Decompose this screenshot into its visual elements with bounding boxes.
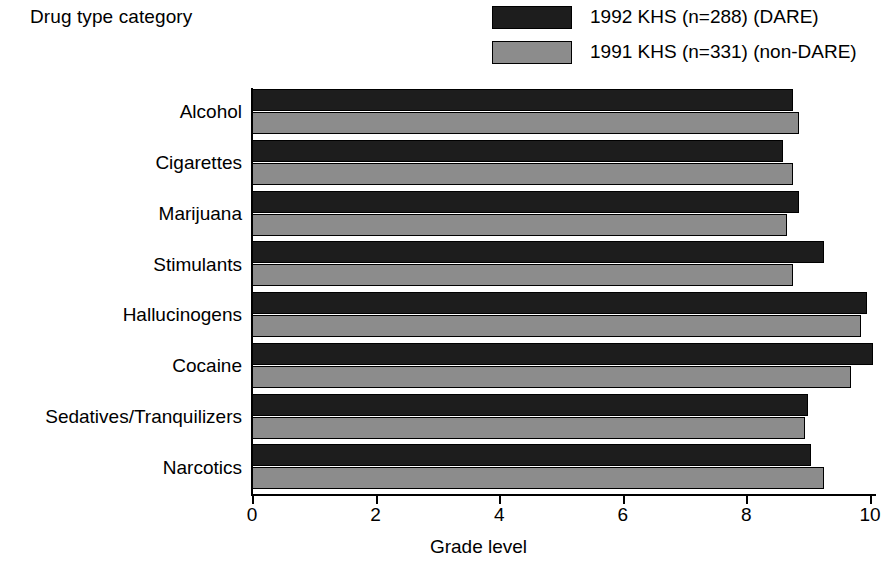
x-tick-label: 0 bbox=[247, 504, 258, 526]
bar-stimulants-1992 bbox=[252, 241, 824, 263]
bar-sedatives-tranquilizers-1991 bbox=[252, 417, 805, 439]
bar-narcotics-1991 bbox=[252, 467, 824, 489]
x-tick-label: 2 bbox=[370, 504, 381, 526]
x-tick-label: 6 bbox=[618, 504, 629, 526]
x-tick-label: 10 bbox=[859, 504, 880, 526]
bar-group bbox=[252, 292, 870, 343]
category-label: Cocaine bbox=[0, 355, 242, 377]
legend-label-1992: 1992 KHS (n=288) (DARE) bbox=[590, 6, 819, 28]
legend-swatch-dark bbox=[492, 6, 572, 29]
bar-group bbox=[252, 140, 870, 191]
bar-hallucinogens-1992 bbox=[252, 292, 867, 314]
category-label: Hallucinogens bbox=[0, 304, 242, 326]
bar-group bbox=[252, 394, 870, 445]
category-label: Sedatives/Tranquilizers bbox=[0, 406, 242, 428]
legend-label-1991: 1991 KHS (n=331) (non-DARE) bbox=[590, 41, 857, 63]
bar-alcohol-1992 bbox=[252, 89, 793, 111]
category-label: Cigarettes bbox=[0, 152, 242, 174]
bar-cocaine-1991 bbox=[252, 366, 851, 388]
y-axis-title: Drug type category bbox=[30, 6, 192, 28]
legend-swatch-grey bbox=[492, 41, 572, 64]
category-label: Marijuana bbox=[0, 203, 242, 225]
category-label: Narcotics bbox=[0, 457, 242, 479]
legend-item-1991: 1991 KHS (n=331) (non-DARE) bbox=[492, 37, 887, 67]
bar-stimulants-1991 bbox=[252, 264, 793, 286]
bar-chart: Drug type category 1992 KHS (n=288) (DAR… bbox=[0, 0, 887, 573]
bar-alcohol-1991 bbox=[252, 112, 799, 134]
bar-group bbox=[252, 241, 870, 292]
bar-marijuana-1992 bbox=[252, 191, 799, 213]
x-tick-label: 8 bbox=[741, 504, 752, 526]
bar-hallucinogens-1991 bbox=[252, 315, 861, 337]
bar-cigarettes-1992 bbox=[252, 140, 783, 162]
bar-group bbox=[252, 343, 870, 394]
plot-area bbox=[252, 88, 870, 494]
bar-group bbox=[252, 89, 870, 140]
legend-item-1992: 1992 KHS (n=288) (DARE) bbox=[492, 2, 887, 32]
category-label: Stimulants bbox=[0, 254, 242, 276]
bar-cigarettes-1991 bbox=[252, 163, 793, 185]
x-tick bbox=[746, 496, 748, 504]
x-tick bbox=[376, 496, 378, 504]
bar-sedatives-tranquilizers-1992 bbox=[252, 394, 808, 416]
bar-narcotics-1992 bbox=[252, 444, 811, 466]
bar-group bbox=[252, 191, 870, 242]
x-tick-label: 4 bbox=[494, 504, 505, 526]
chart-legend: 1992 KHS (n=288) (DARE) 1991 KHS (n=331)… bbox=[492, 2, 887, 72]
bar-cocaine-1992 bbox=[252, 343, 873, 365]
x-tick bbox=[499, 496, 501, 504]
x-tick bbox=[870, 496, 872, 504]
bar-marijuana-1991 bbox=[252, 214, 787, 236]
category-label: Alcohol bbox=[0, 101, 242, 123]
x-tick bbox=[252, 496, 254, 504]
x-axis-title: Grade level bbox=[0, 536, 887, 558]
x-tick bbox=[623, 496, 625, 504]
bar-group bbox=[252, 444, 870, 495]
